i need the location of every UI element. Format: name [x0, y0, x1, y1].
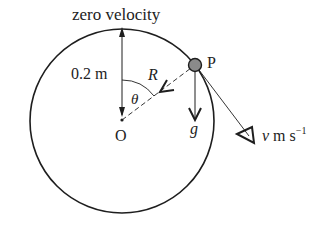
reaction-label: R [147, 66, 158, 83]
circular-motion-diagram: zero velocity 0.2 m O P R θ g v m s−1 [0, 0, 336, 233]
angle-label: θ [131, 91, 139, 107]
radius-arrow [119, 27, 125, 117]
point-label: P [207, 54, 216, 71]
velocity-line [196, 66, 249, 136]
gravity-arrow [189, 66, 201, 120]
center-label: O [115, 127, 127, 144]
zero-velocity-label: zero velocity [72, 5, 161, 24]
particle-p [189, 59, 202, 72]
radius-label: 0.2 m [71, 65, 108, 82]
gravity-label: g [190, 120, 198, 138]
velocity-label: v m s−1 [262, 125, 306, 144]
velocity-arrow-icon [237, 127, 254, 143]
